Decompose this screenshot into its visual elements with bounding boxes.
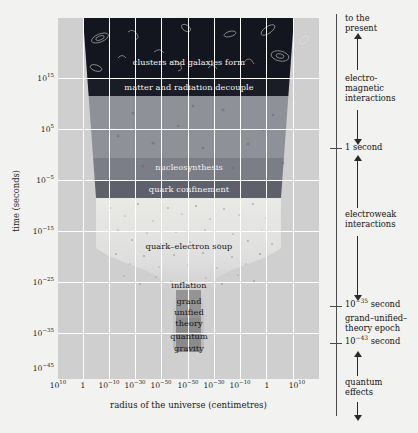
epoch-label-matter-and-radiation-decouple: matter and radiation decouple	[124, 82, 253, 92]
gridline-vertical	[161, 18, 162, 379]
epoch-label-quantum: quantum	[170, 331, 208, 341]
y-tick: 105	[41, 125, 54, 134]
rail-label-gut-time: 10−35 second	[345, 300, 400, 310]
y-tick: 1015	[37, 74, 54, 83]
y-tick: 10−15	[33, 227, 54, 236]
rail-label-electromagnetic-line3: interactions	[345, 94, 395, 104]
rail-label-quantum-effects-line2: effects	[345, 388, 373, 398]
x-tick: 10−10	[229, 381, 250, 390]
x-tick: 10−30	[124, 381, 145, 390]
arrow-down-to-gut-time	[357, 236, 358, 296]
x-tick: 10−10	[98, 381, 119, 390]
y-tick: 10−5	[36, 176, 54, 185]
x-axis-label: radius of the universe (centimetres)	[58, 400, 319, 410]
gridline-horizontal	[58, 129, 319, 130]
rail-axis-line	[336, 14, 337, 416]
arrow-down-to-one-second	[357, 110, 358, 140]
y-tick: 10−45	[33, 364, 54, 373]
arrow-up-to-one-second	[357, 160, 358, 208]
epoch-label-quark-electron-soup: quark–electron soup	[146, 241, 233, 251]
epoch-label-nucleosynthesis: nucleosynthesis	[155, 162, 223, 172]
arrow-up-quantum-effects	[357, 356, 358, 376]
epoch-label-gravity: gravity	[174, 343, 204, 353]
interaction-epoch-rail: to the present electro- magnetic interac…	[336, 14, 418, 416]
gridline-horizontal	[58, 180, 319, 181]
epoch-label-quark-confinement: quark confinement	[149, 184, 229, 194]
gridline-horizontal	[58, 78, 319, 79]
epoch-label-grand: grand	[176, 296, 201, 306]
cosmology-timeline-figure: clusters and galaxies form matter and ra…	[0, 0, 418, 433]
y-tick: 10−35	[33, 329, 54, 338]
plot-area: clusters and galaxies form matter and ra…	[58, 18, 319, 379]
rail-label-electroweak-line2: interactions	[345, 220, 395, 230]
gridline-vertical	[109, 18, 110, 379]
rail-label-gut-epoch-line2: theory epoch	[345, 324, 400, 334]
arrow-down-quantum-effects	[357, 402, 358, 416]
rail-tick-one-second	[330, 148, 342, 149]
x-tick: 1010	[289, 381, 306, 390]
epoch-label-inflation: inflation	[171, 280, 206, 290]
gridline-horizontal	[58, 231, 319, 232]
gridline-vertical	[266, 18, 267, 379]
gridline-vertical	[83, 18, 84, 379]
x-tick: 10−50	[177, 381, 198, 390]
x-tick: 10−30	[203, 381, 224, 390]
epoch-label-clusters-and-galaxies-form: clusters and galaxies form	[133, 57, 245, 67]
x-tick: 1	[81, 381, 86, 390]
gridline-vertical	[135, 18, 136, 379]
gridline-vertical	[214, 18, 215, 379]
gridline-vertical	[293, 18, 294, 379]
rail-tick-gut-time	[330, 306, 342, 307]
y-tick: 10−25	[33, 278, 54, 287]
arrow-up-to-present	[357, 38, 358, 70]
x-tick: 1010	[50, 381, 67, 390]
gridline-vertical	[240, 18, 241, 379]
rail-label-one-second: 1 second	[345, 143, 382, 153]
epoch-label-unified: unified	[174, 307, 204, 317]
x-tick: 10−50	[150, 381, 171, 390]
rail-label-planck-time: 10−43 second	[345, 337, 400, 347]
y-axis-label: time (seconds)	[11, 141, 21, 261]
x-tick: 1	[265, 381, 270, 390]
rail-tick-planck-time	[330, 343, 342, 344]
epoch-label-theory: theory	[175, 318, 202, 328]
